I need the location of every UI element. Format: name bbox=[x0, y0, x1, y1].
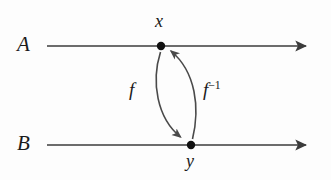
figure-canvas: A B x y f f−1 bbox=[0, 0, 331, 180]
set-label-A: A bbox=[17, 34, 30, 55]
point-label-y: y bbox=[186, 152, 194, 170]
diagram-svg bbox=[0, 0, 331, 180]
map-label-f-inverse-exponent: −1 bbox=[208, 79, 220, 92]
set-label-B: B bbox=[17, 133, 30, 154]
map-label-f-base: f bbox=[129, 79, 134, 100]
map-label-f-inverse: f−1 bbox=[203, 80, 220, 99]
curve-f bbox=[156, 52, 180, 137]
curve-f-inverse bbox=[171, 51, 196, 139]
point-y-dot bbox=[187, 141, 195, 149]
point-x-dot bbox=[157, 42, 165, 50]
map-label-f: f bbox=[129, 80, 134, 99]
point-label-x: x bbox=[155, 12, 163, 30]
